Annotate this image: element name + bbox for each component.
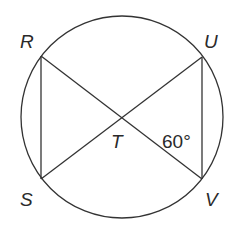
label-S: S <box>20 189 33 210</box>
circle-diagram: R U S V T 60° <box>0 0 239 228</box>
angle-label: 60° <box>162 131 191 152</box>
geometry-figure: R U S V T 60° <box>0 0 239 228</box>
label-T: T <box>111 131 124 152</box>
label-U: U <box>204 31 218 52</box>
label-V: V <box>205 189 220 210</box>
label-R: R <box>20 31 34 52</box>
